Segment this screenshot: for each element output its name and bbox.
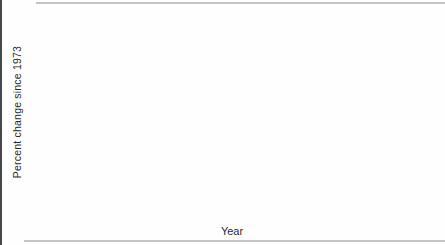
left-rule <box>0 0 2 245</box>
top-rule <box>36 2 445 4</box>
x-axis-label: Year <box>221 225 243 237</box>
line-chart-figure: 9080706050403020100-10197319751977197919… <box>0 0 445 245</box>
y-axis-label: Percent change since 1973 <box>11 46 23 178</box>
bottom-rule <box>24 240 445 242</box>
